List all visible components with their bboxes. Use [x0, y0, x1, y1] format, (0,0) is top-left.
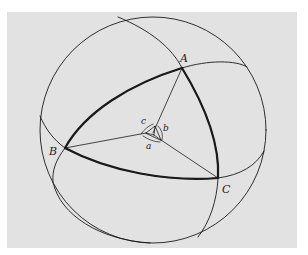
great-circle-bc — [40, 116, 264, 179]
angle-label-a: a — [146, 141, 151, 151]
angle-label-c: c — [141, 116, 146, 126]
angle-label-b: b — [163, 123, 169, 133]
great-circle-ab — [53, 62, 247, 243]
radius-oc — [161, 140, 218, 178]
triangle-side-ca — [182, 68, 218, 178]
vertex-label-c: C — [222, 183, 231, 196]
vertex-label-b: B — [48, 145, 57, 158]
center-angle-marker — [146, 126, 161, 140]
radius-ob — [65, 133, 146, 148]
sphere-diagram: A B C c b a — [0, 0, 308, 255]
vertex-label-a: A — [179, 52, 188, 65]
sphere-outline — [40, 17, 266, 243]
triangle-side-bc — [65, 148, 218, 179]
center-inner-lines — [146, 126, 161, 140]
